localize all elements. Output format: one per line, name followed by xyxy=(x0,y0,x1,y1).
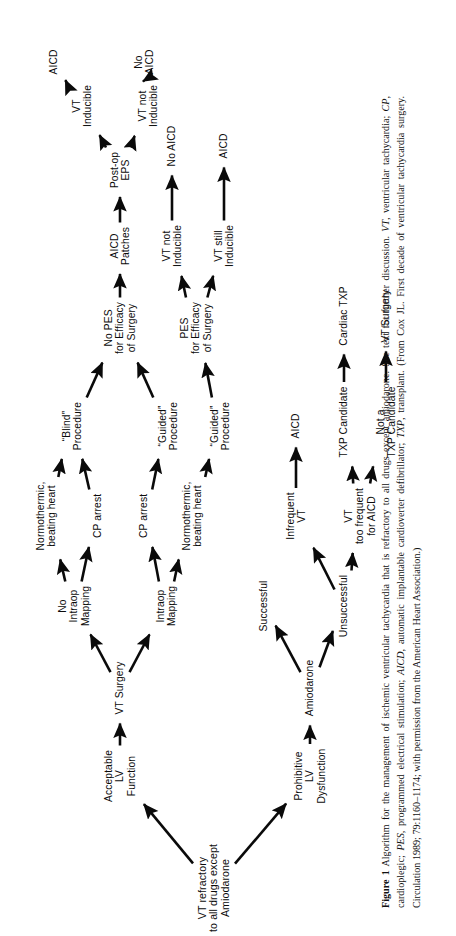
node-nopes: No PES for Efficacy of Surgery xyxy=(103,302,137,354)
node-intramap: Intraop Mapping xyxy=(155,585,178,625)
node-unsuccess: Unsuccessful xyxy=(338,574,349,636)
figure-caption-block: Figure 1 Algorithm for the management of… xyxy=(378,96,444,908)
node-aicd1: AICD xyxy=(48,49,59,74)
caption-run: AICD xyxy=(395,651,406,675)
node-toofreq: VT too frequent for AICD xyxy=(343,487,377,543)
node-nomap: No Intraop Mapping xyxy=(57,585,91,625)
node-amio: Amiodarone xyxy=(304,659,315,716)
node-normo1: Normothermic, beating heart xyxy=(35,481,58,550)
edge-root-to-prohiblv xyxy=(235,803,286,863)
edge-toofreq-to-txpcand xyxy=(352,466,353,483)
node-noaicd1: No AICD xyxy=(133,49,156,74)
caption-run: TXP xyxy=(395,420,406,438)
edge-vtind-to-aicd1 xyxy=(65,80,66,82)
node-blind: “Blind” Procedure xyxy=(61,401,84,449)
caption-run: PES xyxy=(395,833,406,850)
node-aicd_inf: AICD xyxy=(290,413,301,438)
edge-intramap-to-normo2 xyxy=(174,559,179,581)
flowchart-rotated-group: VT refractory to all drugs except Amioda… xyxy=(24,46,404,936)
edge-pes-to-vtnotind2 xyxy=(182,275,187,297)
caption-run: , automatic implantable cardioverter def… xyxy=(395,438,406,651)
flowchart: VT refractory to all drugs except Amioda… xyxy=(24,46,404,936)
caption-run: , ventricular tachycardia; xyxy=(380,111,391,219)
edge-cp2-to-guided1 xyxy=(152,458,158,489)
node-vtsurg: VT Surgery xyxy=(114,661,125,714)
node-cardtxp: Cardiac TXP xyxy=(338,286,349,345)
caption-run: CP xyxy=(380,99,391,112)
node-cp1: CP arrest xyxy=(92,493,103,537)
node-vtnotind2: VT not Inducible xyxy=(161,224,184,266)
node-acceptlv: Acceptable LV Function xyxy=(103,750,137,802)
node-patches: AICD Patches xyxy=(109,227,132,265)
edge-cp1-to-blind xyxy=(82,458,89,489)
caption-run: Algorithm for the management of ischemic… xyxy=(380,232,391,871)
edge-normo2-to-guided2 xyxy=(205,458,209,476)
edge-vtsurg-to-intramap xyxy=(130,634,150,672)
node-prohiblv: Prohibitive LV Dysfunction xyxy=(293,748,327,803)
edge-amio-to-success xyxy=(276,625,301,672)
node-root: VT refractory to all drugs except Amioda… xyxy=(197,844,231,932)
edge-guided1-to-nopes xyxy=(138,362,154,397)
edge-nomap-to-cp1 xyxy=(82,546,89,581)
edge-nomap-to-normo1 xyxy=(60,559,65,581)
node-vtind: VT Inducible xyxy=(71,84,94,126)
edge-normo1-to-blind xyxy=(58,458,62,476)
node-aicd3: AICD xyxy=(218,133,229,158)
edge-toofreq-to-nottxp xyxy=(370,466,373,483)
edge-pes-to-vtstill xyxy=(207,275,213,297)
edge-vtnotind-to-noaicd1 xyxy=(143,80,144,81)
figure-caption-text: Figure 1 Algorithm for the management of… xyxy=(378,96,444,908)
edge-root-to-acceptlv xyxy=(144,804,193,863)
caption-run: VT xyxy=(380,220,391,232)
edge-vtsurg-to-nomap xyxy=(91,634,111,672)
node-success: Successful xyxy=(258,580,269,631)
node-vtstill: VT still Inducible xyxy=(213,224,236,266)
caption-run: Figure 1 xyxy=(380,870,391,908)
node-posteps: Post-op EPS xyxy=(109,151,132,187)
edge-blind-to-nopes xyxy=(87,362,103,397)
edge-intramap-to-cp2 xyxy=(152,546,159,581)
node-noaicd2: No AICD xyxy=(166,125,177,166)
edge-amio-to-unsuccess xyxy=(320,631,333,667)
node-guided1: “Guided” Procedure xyxy=(157,401,180,449)
node-cp2: CP arrest xyxy=(138,493,149,537)
node-txpcand: TXP Candidate xyxy=(338,386,349,457)
edge-posteps-to-vtind xyxy=(100,135,106,147)
edge-guided2-to-pes xyxy=(205,362,212,397)
edge-unsuccess-to-toofreq xyxy=(352,553,353,571)
node-infreq: Infrequent VT xyxy=(285,492,308,539)
node-guided2: “Guided” Procedure xyxy=(209,401,232,449)
node-pes: PES for Efficacy of Surgery xyxy=(179,302,213,354)
node-vtnotind: VT not Inducible xyxy=(137,84,160,126)
caption-run: , programmed electrical stimulation; xyxy=(395,675,406,833)
node-normo2: Normothermic, beating heart xyxy=(181,481,204,550)
edge-unsuccess-to-infreq xyxy=(314,547,335,589)
edge-posteps-to-vtnotind xyxy=(131,135,135,147)
